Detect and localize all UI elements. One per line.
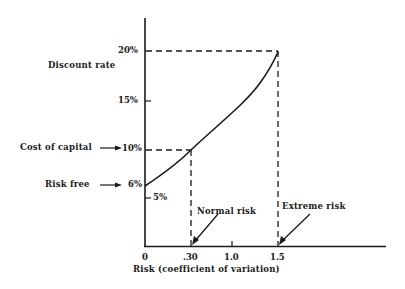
normal-risk-label: Normal risk <box>197 206 256 216</box>
risk-free-arrowhead <box>115 183 122 188</box>
y-tick-label-5: 5% <box>153 192 167 202</box>
cost-of-capital-label: Cost of capital <box>20 142 92 152</box>
extreme-risk-arrow <box>282 214 310 241</box>
y-tick-label-15: 15% <box>118 95 138 105</box>
y-tick-label-20: 20% <box>118 45 138 55</box>
risk-free-label: Risk free <box>45 179 90 189</box>
y-axis-label: Discount rate <box>48 60 115 70</box>
normal-risk-arrow <box>195 214 218 241</box>
x-tick-label-0: 0 <box>142 252 148 262</box>
y-tick-label-6: 6% <box>128 179 142 189</box>
discount-rate-curve <box>145 52 278 186</box>
x-tick-label-1: 1.0 <box>224 252 239 262</box>
y-tick-label-10: 10% <box>122 143 142 153</box>
cost-of-capital-arrowhead <box>115 146 122 151</box>
extreme-risk-label: Extreme risk <box>282 201 346 211</box>
x-tick-label-030: .30 <box>183 252 198 262</box>
x-axis-label: Risk (coefficient of variation) <box>133 264 280 274</box>
x-tick-label-15: 1.5 <box>270 252 285 262</box>
